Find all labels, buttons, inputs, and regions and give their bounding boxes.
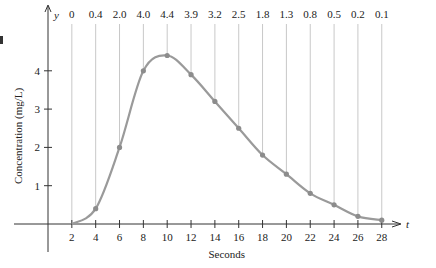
top-value-label: 0.1	[375, 8, 389, 20]
x-tick-label: 20	[281, 231, 293, 243]
data-point	[260, 152, 265, 157]
top-value-label: 2.5	[232, 8, 246, 20]
x-tick-label: 8	[141, 231, 147, 243]
top-value-label: 0.8	[303, 8, 317, 20]
y-axis-title: Concentration (mg/L)	[12, 87, 25, 184]
x-tick-label: 6	[117, 231, 123, 243]
top-value-label: 4.0	[136, 8, 150, 20]
data-point	[117, 145, 122, 150]
x-tick-label: 18	[257, 231, 269, 243]
x-tick-label: 28	[376, 231, 388, 243]
data-point	[236, 126, 241, 131]
x-tick-label: 14	[209, 231, 221, 243]
x-tick-label: 26	[352, 231, 364, 243]
x-axis-title: Seconds	[208, 248, 245, 260]
data-point	[93, 206, 98, 211]
top-value-label: 1.3	[280, 8, 294, 20]
x-tick-label: 2	[69, 231, 75, 243]
top-value-label: 3.2	[208, 8, 222, 20]
top-value-label: 2.0	[113, 8, 127, 20]
data-point	[165, 53, 170, 58]
x-tick-label: 24	[329, 231, 341, 243]
x-tick-label: 12	[186, 231, 197, 243]
x-tick-label: 16	[233, 231, 245, 243]
data-point	[284, 172, 289, 177]
y-axis-symbol: y	[53, 9, 59, 21]
top-value-label: 3.9	[184, 8, 198, 20]
top-value-label: 0.4	[89, 8, 103, 20]
concentration-curve	[72, 55, 382, 224]
x-tick-label: 22	[305, 231, 316, 243]
y-tick-label: 1	[35, 180, 41, 192]
y-tick-label: 3	[35, 103, 41, 115]
data-point	[141, 68, 146, 73]
top-value-label: 1.8	[256, 8, 270, 20]
data-point	[355, 214, 360, 219]
y-tick-label: 2	[35, 141, 41, 153]
x-axis-symbol: t	[406, 218, 410, 230]
top-value-label: 0	[69, 8, 75, 20]
data-point	[331, 202, 336, 207]
y-tick-label: 4	[35, 65, 41, 77]
data-point	[379, 218, 384, 223]
data-point	[188, 72, 193, 77]
data-point	[212, 99, 217, 104]
concentration-chart: 00.42.04.04.43.93.22.51.81.30.80.50.20.1…	[0, 0, 436, 268]
data-point	[308, 191, 313, 196]
top-value-label: 0.2	[351, 8, 365, 20]
top-value-label: 4.4	[160, 8, 174, 20]
top-value-label: 0.5	[327, 8, 341, 20]
x-tick-label: 10	[162, 231, 174, 243]
x-tick-label: 4	[93, 231, 99, 243]
